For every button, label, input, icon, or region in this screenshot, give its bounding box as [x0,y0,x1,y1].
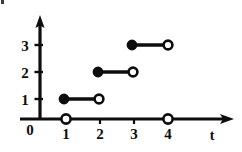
open-endpoint-level-2 [129,68,138,77]
y-tick-label-3: 3 [21,38,29,54]
scan-speck [1,0,4,4]
x-tick-label-4: 4 [164,126,172,142]
open-endpoint-axis-t1 [61,114,70,123]
chart-background [0,0,242,152]
open-endpoint-level-3 [164,41,173,50]
step-function-chart: 1 2 3 1 2 3 4 0 t [0,0,242,152]
y-tick-label-2: 2 [21,65,29,81]
closed-endpoint-level-2 [93,67,102,76]
x-axis-label: t [210,128,215,143]
open-endpoint-axis-t4 [163,114,172,123]
y-tick-label-1: 1 [21,92,29,108]
x-tick-label-2: 2 [96,126,104,142]
origin-label: 0 [26,122,34,138]
closed-endpoint-level-1 [59,94,68,103]
closed-endpoint-level-3 [127,40,136,49]
x-tick-label-3: 3 [130,126,138,142]
open-endpoint-level-1 [95,95,104,104]
x-tick-label-1: 1 [62,126,70,142]
